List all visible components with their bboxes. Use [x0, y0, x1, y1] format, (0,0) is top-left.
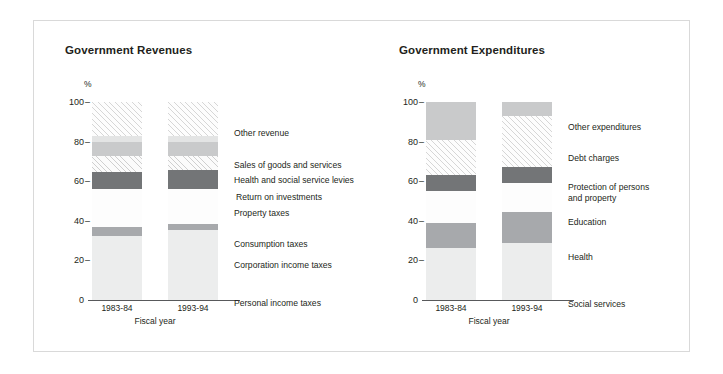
legend-item-other-revenue: Other revenue	[234, 128, 289, 139]
legend-item-corporation-income-taxes: Corporation income taxes	[234, 260, 332, 271]
legend-item-sales-of-goods-and-services: Sales of goods and services	[234, 160, 342, 171]
legend-item-debt-charges: Debt charges	[568, 153, 619, 164]
chart-panel-revenues: Government Revenues % 100 – 80 – 60 – 40…	[34, 21, 374, 351]
legend-item-personal-income-taxes: Personal income taxes	[234, 298, 321, 309]
chart-title-revenues: Government Revenues	[65, 44, 192, 56]
legend-expenditures: Other expenditures Debt charges Protecti…	[392, 79, 682, 309]
plot-area-expenditures: % 100 – 80 – 60 – 40 – 20 – 0	[392, 79, 682, 309]
legend-revenues: Other revenue Sales of goods and service…	[58, 79, 358, 309]
legend-item-return-on-investments: Return on investments	[236, 192, 322, 203]
legend-item-property-taxes: Property taxes	[234, 208, 289, 219]
legend-item-education: Education	[568, 217, 606, 228]
legend-item-health: Health	[568, 252, 593, 263]
legend-item-protection-of-persons-and-property: Protection of persons and property	[568, 182, 649, 203]
legend-item-social-services: Social services	[568, 299, 625, 310]
legend-item-other-expenditures: Other expenditures	[568, 122, 641, 133]
x-axis-title-expenditures: Fiscal year	[422, 316, 556, 326]
plot-area-revenues: % 100 – 80 – 60 – 40 – 20 – 0	[58, 79, 358, 309]
chart-panel-expenditures: Government Expenditures % 100 – 80 – 60 …	[367, 21, 691, 351]
chart-title-expenditures: Government Expenditures	[399, 44, 545, 56]
legend-item-consumption-taxes: Consumption taxes	[234, 239, 308, 250]
figure-frame: Government Revenues % 100 – 80 – 60 – 40…	[33, 20, 690, 352]
legend-item-health-social-service-levies: Health and social service levies	[234, 175, 354, 186]
x-axis-title-revenues: Fiscal year	[88, 316, 222, 326]
